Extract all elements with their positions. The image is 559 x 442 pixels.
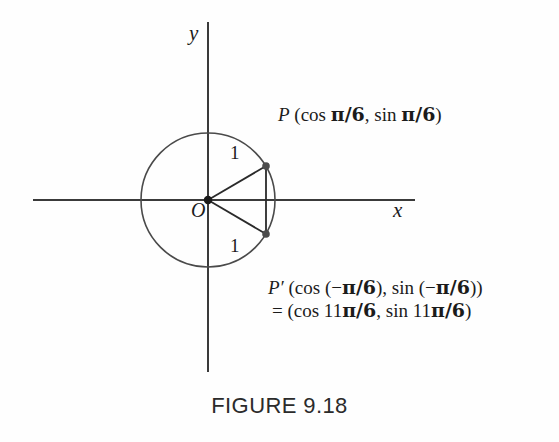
- point-p-close: ): [435, 104, 441, 125]
- x-axis-label: x: [393, 198, 402, 223]
- radius-segment-to-p: [208, 166, 266, 200]
- point-p-prime-eq-angle-second: π/6: [431, 299, 465, 321]
- y-axis-label: y: [189, 21, 198, 46]
- origin-label: O: [191, 199, 205, 223]
- point-p-marker: [262, 162, 270, 170]
- point-p-prime-line-two: = (cos 11π/6, sin 11π/6): [268, 299, 483, 322]
- point-p-prime-eq-mid: , sin 11: [376, 300, 431, 321]
- point-p-prime-label: P′ (cos (−π/6), sin (−π/6)) = (cos 11π/6…: [268, 276, 483, 323]
- figure-caption: FIGURE 9.18: [0, 393, 559, 419]
- point-p-name: P: [278, 104, 290, 125]
- radius-length-label-upper: 1: [230, 142, 240, 164]
- radius-segment-to-p-prime: [208, 200, 266, 234]
- point-p-prime-open: (cos (−: [284, 277, 342, 298]
- point-p-angle-first: π/6: [331, 103, 365, 125]
- point-p-prime-angle-first: π/6: [342, 276, 376, 298]
- point-p-angle-second: π/6: [401, 103, 435, 125]
- unit-circle-diagram: [0, 0, 559, 442]
- point-p-open: (cos: [290, 104, 331, 125]
- point-p-prime-line-one: P′ (cos (−π/6), sin (−π/6)): [268, 277, 483, 298]
- point-p-prime-close: )): [470, 277, 483, 298]
- point-p-prime-eq-open: = (cos 11: [272, 300, 342, 321]
- point-p-mid: , sin: [365, 104, 401, 125]
- point-p-prime-eq-close: ): [465, 300, 471, 321]
- point-p-prime-mid: ), sin (−: [376, 277, 436, 298]
- point-p-prime-name: P′: [268, 277, 284, 298]
- radius-length-label-lower: 1: [230, 235, 240, 257]
- point-p-prime-angle-second: π/6: [436, 276, 470, 298]
- point-p-prime-marker: [262, 230, 270, 238]
- point-p-prime-eq-angle-first: π/6: [342, 299, 376, 321]
- point-p-label: P (cos π/6, sin π/6): [278, 103, 442, 126]
- figure-container: y x O 1 1 P (cos π/6, sin π/6) P′ (cos (…: [0, 0, 559, 442]
